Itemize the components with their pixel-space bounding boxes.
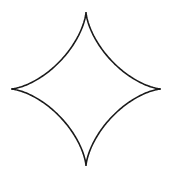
astroid-curve [11,12,161,166]
astroid-shape [0,0,169,175]
diagram-canvas [0,0,169,175]
